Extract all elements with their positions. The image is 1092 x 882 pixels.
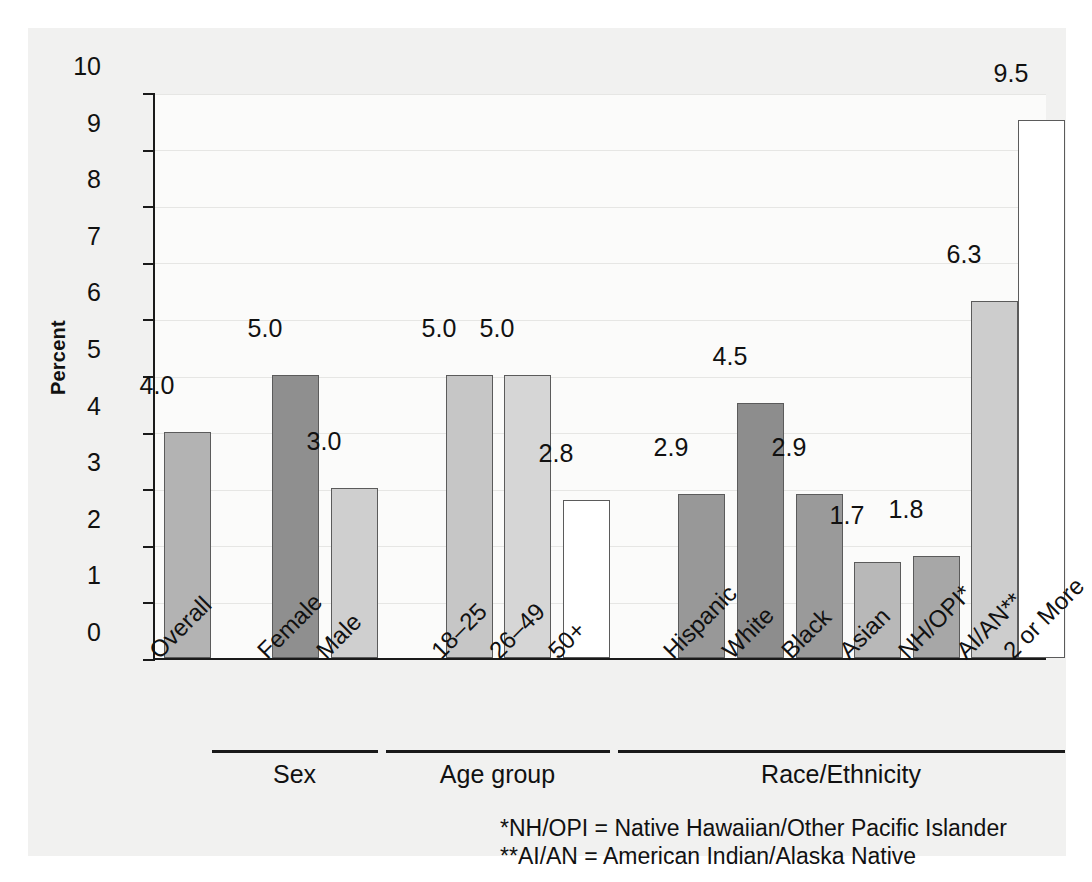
footnote-line-2: **AI/AN = American Indian/Alaska Native [500,843,916,869]
footnote-line-1: *NH/OPI = Native Hawaiian/Other Pacific … [500,815,1007,841]
figure-canvas: Percent 012345678910 4.05.03.05.05.02.82… [0,0,1092,882]
y-axis-tick-label: 7 [41,224,101,249]
bar-value-label: 9.5 [966,61,1056,86]
y-axis-tick [143,546,155,548]
bar-value-label: 4.0 [112,373,202,398]
gridline [155,94,1046,95]
y-axis-tick-label: 3 [41,450,101,475]
y-axis-tick [143,433,155,435]
group-rule [386,750,610,753]
chart-panel: Percent 012345678910 4.05.03.05.05.02.82… [28,28,1066,856]
y-axis-tick-label: 10 [41,54,101,79]
bar-value-label: 6.3 [919,242,1009,267]
y-axis-tick [143,93,155,95]
group-label: Age group [386,762,610,787]
gridline [155,263,1046,264]
footnotes: *NH/OPI = Native Hawaiian/Other Pacific … [500,814,1007,870]
y-axis-tick [143,263,155,265]
bar-value-label: 2.9 [626,435,716,460]
y-axis-tick-label: 0 [41,620,101,645]
plot-area [153,94,1046,660]
y-axis-tick [143,319,155,321]
bar-value-label: 1.8 [861,497,951,522]
y-axis-tick-label: 9 [41,111,101,136]
y-axis-tick-label: 6 [41,280,101,305]
group-rule [618,750,1065,753]
gridline [155,207,1046,208]
bar [1018,120,1065,658]
bar-value-label: 2.9 [744,435,834,460]
y-axis-tick [143,602,155,604]
group-rule [212,750,378,753]
bar-value-label: 5.0 [220,316,310,341]
y-axis-tick [143,150,155,152]
bar-value-label: 4.5 [685,344,775,369]
group-label: Sex [212,762,378,787]
gridline [155,150,1046,151]
y-axis-tick-label: 5 [41,337,101,362]
group-label: Race/Ethnicity [618,762,1065,787]
bar-value-label: 3.0 [279,429,369,454]
y-axis-tick [143,659,155,661]
y-axis-tick-label: 1 [41,563,101,588]
y-axis-tick-label: 8 [41,167,101,192]
y-axis-tick [143,489,155,491]
y-axis-tick [143,206,155,208]
bar-value-label: 5.0 [452,316,542,341]
y-axis-tick-label: 4 [41,394,101,419]
bar-value-label: 2.8 [511,441,601,466]
y-axis-tick-label: 2 [41,507,101,532]
